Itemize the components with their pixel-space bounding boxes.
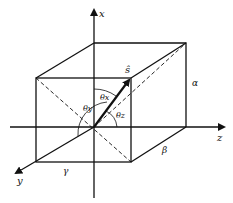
alpha-label: α	[192, 78, 198, 88]
theta-x-label: θx	[100, 93, 110, 102]
x-axis-label: x	[99, 8, 105, 19]
y-axis	[16, 127, 94, 173]
dashed-diagonal-front	[36, 78, 131, 162]
s-vector-label: ŝ	[125, 64, 130, 75]
cube-edge-top-right	[131, 43, 186, 78]
cube-edge-top-left	[36, 43, 94, 78]
beta-label: β	[161, 145, 167, 155]
direction-cosine-diagram: x z y ŝ θx θy θz α β γ	[0, 0, 233, 203]
z-axis-label: z	[216, 132, 223, 143]
gamma-label: γ	[63, 166, 69, 176]
y-axis-label: y	[16, 175, 23, 186]
dashed-diagonal-space	[94, 43, 186, 127]
theta-z-label: θz	[116, 111, 126, 120]
theta-y-label: θy	[83, 104, 93, 113]
cube-diagram-svg: x z y ŝ θx θy θz α β γ	[0, 0, 233, 203]
cube-edge-beta	[131, 127, 186, 162]
